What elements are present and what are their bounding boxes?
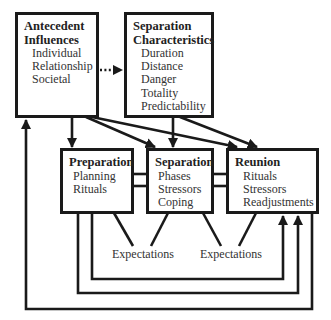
box-item: Stressors xyxy=(229,183,316,196)
line-reunion-to-expectations-right xyxy=(239,213,256,246)
box-title: Separation xyxy=(149,156,211,170)
box-separation-characteristics: Separation Characteristics Duration Dist… xyxy=(124,12,214,118)
box-title: Reunion xyxy=(229,156,316,170)
box-item: Coping xyxy=(149,196,211,209)
feedback-loop-middle xyxy=(78,213,298,293)
box-title: Influences xyxy=(18,34,96,48)
box-item: Danger xyxy=(127,73,211,86)
box-item: Readjustments xyxy=(229,196,316,209)
box-item: Totality xyxy=(127,87,211,100)
box-item: Rituals xyxy=(229,170,316,183)
box-separation: Separation Phases Stressors Coping xyxy=(146,148,214,214)
line-separation-to-expectations-right xyxy=(203,213,221,246)
box-reunion: Reunion Rituals Stressors Readjustments xyxy=(226,148,319,214)
box-preparation: Preparation Planning Rituals xyxy=(60,148,134,214)
arrow-antecedent-to-separation xyxy=(86,117,155,147)
box-item: Societal xyxy=(18,73,96,86)
box-item: Rituals xyxy=(63,183,131,196)
box-item: Predictability xyxy=(127,100,211,113)
box-title: Separation xyxy=(127,20,211,34)
label-expectations-left: Expectations xyxy=(112,247,174,262)
box-item: Stressors xyxy=(149,183,211,196)
box-item: Phases xyxy=(149,170,211,183)
line-separation-to-expectations-left xyxy=(151,213,168,246)
box-title: Antecedent xyxy=(18,20,96,34)
box-antecedent-influences: Antecedent Influences Individual Relatio… xyxy=(15,12,99,118)
label-expectations-right: Expectations xyxy=(200,247,262,262)
box-title: Preparation xyxy=(63,156,131,170)
box-item: Planning xyxy=(63,170,131,183)
box-title: Characteristics xyxy=(127,34,211,48)
line-preparation-to-expectations-left xyxy=(114,213,133,246)
